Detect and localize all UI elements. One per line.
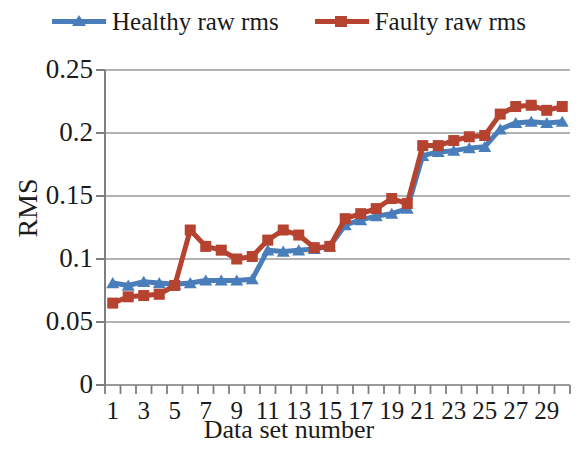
data-point-marker-square [340, 213, 351, 224]
chart-canvas [0, 40, 578, 459]
data-point-marker-square [293, 230, 304, 241]
data-point-marker-square [231, 254, 242, 265]
legend-line-triangle-icon [52, 12, 106, 30]
data-point-marker-square [278, 225, 289, 236]
data-point-marker-square [216, 245, 227, 256]
data-point-marker-square [526, 100, 537, 111]
data-point-marker-square [107, 298, 118, 309]
data-point-marker-square [433, 140, 444, 151]
data-point-marker-square [185, 225, 196, 236]
data-point-marker-square [169, 280, 180, 291]
legend-entry-healthy: Healthy raw rms [52, 9, 279, 34]
data-point-marker-square [541, 105, 552, 116]
data-point-marker-square [417, 140, 428, 151]
data-point-marker-square [324, 241, 335, 252]
data-point-marker-square [402, 198, 413, 209]
legend-entry-faulty: Faulty raw rms [315, 9, 526, 34]
data-point-marker-square [371, 203, 382, 214]
data-point-marker-square [309, 242, 320, 253]
legend-label-healthy: Healthy raw rms [112, 9, 279, 34]
legend-label-faulty: Faulty raw rms [375, 9, 526, 34]
data-point-marker-square [464, 131, 475, 142]
data-point-marker-square [138, 290, 149, 301]
data-point-marker-square [247, 251, 258, 262]
data-point-marker-square [123, 291, 134, 302]
data-point-marker-square [448, 135, 459, 146]
data-point-marker-square [386, 193, 397, 204]
chart-legend: Healthy raw rms Faulty raw rms [0, 2, 578, 40]
data-point-marker-square [495, 109, 506, 120]
data-point-marker-square [262, 235, 273, 246]
legend-marker-triangle [72, 15, 86, 26]
data-point-marker-square [479, 130, 490, 141]
legend-marker-square [335, 16, 347, 27]
chart-figure: Healthy raw rms Faulty raw rms RMS 00.05… [0, 0, 578, 459]
legend-line-square-icon [315, 12, 369, 30]
plot-area: RMS 00.050.10.150.20.25 1357911131517192… [0, 40, 578, 459]
data-point-marker-square [200, 241, 211, 252]
data-point-marker-square [557, 101, 568, 112]
data-point-marker-square [510, 101, 521, 112]
data-point-marker-square [154, 289, 165, 300]
data-point-marker-square [355, 208, 366, 219]
